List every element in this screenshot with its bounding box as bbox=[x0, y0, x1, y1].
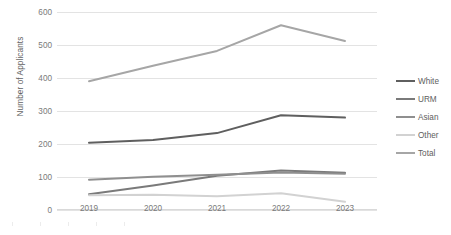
legend-item-label: White bbox=[418, 77, 439, 86]
series-lines bbox=[57, 12, 377, 210]
legend-item-asian[interactable]: Asian bbox=[396, 108, 451, 126]
legend-item-other[interactable]: Other bbox=[396, 126, 451, 144]
series-line-other bbox=[89, 193, 345, 202]
y-axis-title: Number of Applicants bbox=[16, 12, 25, 142]
x-axis-tick-mark bbox=[96, 222, 97, 226]
legend-item-white[interactable]: White bbox=[396, 72, 451, 90]
legend-item-label: Other bbox=[418, 131, 438, 140]
chart-legend: WhiteURMAsianOtherTotal bbox=[396, 72, 451, 162]
y-axis-tick-label: 600 bbox=[38, 8, 52, 17]
legend-swatch-icon bbox=[396, 80, 415, 82]
legend-item-label: URM bbox=[418, 95, 437, 104]
series-line-white bbox=[89, 115, 345, 142]
x-axis-tick-label: 2022 bbox=[272, 204, 290, 213]
y-axis-tick-label: 300 bbox=[38, 107, 52, 116]
x-axis-tick-label: 2020 bbox=[144, 204, 162, 213]
legend-swatch-icon bbox=[396, 152, 415, 154]
x-axis-tick-mark bbox=[68, 222, 69, 226]
plot-area: 0100200300400500600 bbox=[57, 12, 377, 210]
x-axis-tick-label: 2023 bbox=[336, 204, 354, 213]
series-line-total bbox=[89, 25, 345, 81]
legend-swatch-icon bbox=[396, 98, 415, 100]
y-axis-tick-label: 100 bbox=[38, 173, 52, 182]
legend-item-label: Total bbox=[418, 149, 435, 158]
legend-item-label: Asian bbox=[418, 113, 438, 122]
y-axis-tick-label: 400 bbox=[38, 74, 52, 83]
x-axis-tick-mark bbox=[40, 222, 41, 226]
legend-swatch-icon bbox=[396, 116, 415, 118]
y-axis-tick-label: 500 bbox=[38, 41, 52, 50]
y-axis-tick-label: 200 bbox=[38, 140, 52, 149]
legend-item-urm[interactable]: URM bbox=[396, 90, 451, 108]
x-axis-tick-mark bbox=[12, 222, 13, 226]
x-axis-tick-label: 2019 bbox=[80, 204, 98, 213]
legend-swatch-icon bbox=[396, 134, 415, 136]
y-axis-tick-label: 0 bbox=[47, 206, 52, 215]
x-axis-tick-mark bbox=[124, 222, 125, 226]
legend-item-total[interactable]: Total bbox=[396, 144, 451, 162]
x-axis-tick-label: 2021 bbox=[208, 204, 226, 213]
line-chart: Number of Applicants 0100200300400500600… bbox=[0, 0, 451, 235]
